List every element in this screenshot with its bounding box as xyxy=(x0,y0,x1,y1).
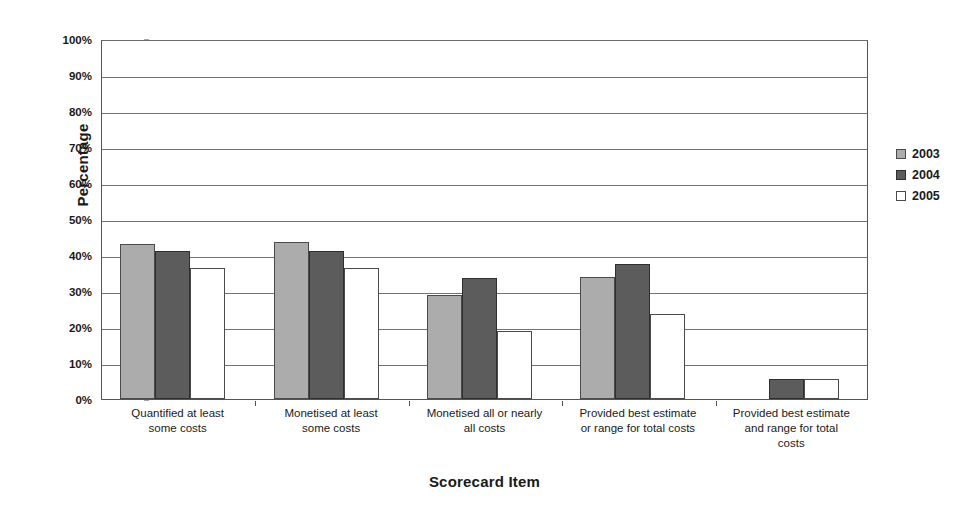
bar-2005-group-4 xyxy=(650,314,685,399)
x-axis-category-label-line: Provided best estimate xyxy=(554,406,721,421)
bar-2003-group-1 xyxy=(120,244,155,399)
y-axis-tick-label: 100% xyxy=(63,34,92,46)
bar-2003-group-3 xyxy=(427,295,462,399)
bars-layer xyxy=(102,41,867,399)
y-axis-tick-label: 60% xyxy=(69,178,92,190)
bar-chart: Percentage 100%90%80%70%60%50%40%30%20%1… xyxy=(0,0,980,511)
light-gray-swatch xyxy=(896,149,906,159)
y-axis-tick-labels: 100%90%80%70%60%50%40%30%20%10%0% xyxy=(48,40,96,400)
legend-item-2005[interactable]: 2005 xyxy=(896,185,974,206)
plot-area xyxy=(101,40,868,400)
y-axis-tick-label: 20% xyxy=(69,322,92,334)
y-axis-tick-label: 40% xyxy=(69,250,92,262)
bar-2004-group-4 xyxy=(615,264,650,399)
y-axis-tick-label: 0% xyxy=(75,394,92,406)
x-axis-category-label: Provided best estimateand range for tota… xyxy=(708,406,875,451)
bar-2005-group-3 xyxy=(497,331,532,399)
x-axis-category-labels: Quantified at leastsome costsMonetised a… xyxy=(101,406,868,466)
chart-legend: 200320042005 xyxy=(896,143,974,206)
bar-2004-group-3 xyxy=(462,278,497,399)
bar-2005-group-5 xyxy=(804,379,839,399)
x-axis-category-label: Provided best estimateor range for total… xyxy=(554,406,721,436)
x-axis-category-label: Quantified at leastsome costs xyxy=(94,406,261,436)
legend-item-label: 2004 xyxy=(912,168,940,182)
bar-2005-group-2 xyxy=(344,268,379,399)
bar-2005-group-1 xyxy=(190,268,225,399)
legend-item-label: 2005 xyxy=(912,189,940,203)
y-axis-tick-label: 10% xyxy=(69,358,92,370)
x-axis-category-label-line: some costs xyxy=(247,421,414,436)
x-axis-title: Scorecard Item xyxy=(101,473,868,490)
white-swatch xyxy=(896,191,906,201)
x-axis-category-label-line: and range for total xyxy=(708,421,875,436)
x-axis-category-label-line: some costs xyxy=(94,421,261,436)
x-axis-category-label-line: or range for total costs xyxy=(554,421,721,436)
bar-2004-group-2 xyxy=(309,251,344,399)
x-axis-category-label-line: all costs xyxy=(401,421,568,436)
legend-item-2003[interactable]: 2003 xyxy=(896,143,974,164)
x-axis-category-label-line: costs xyxy=(708,436,875,451)
bar-2003-group-4 xyxy=(580,277,615,399)
y-axis-tick-label: 50% xyxy=(69,214,92,226)
dark-gray-swatch xyxy=(896,170,906,180)
y-axis-tick-label: 30% xyxy=(69,286,92,298)
legend-item-label: 2003 xyxy=(912,147,940,161)
legend-item-2004[interactable]: 2004 xyxy=(896,164,974,185)
bar-2004-group-1 xyxy=(155,251,190,399)
y-axis-tick-label: 80% xyxy=(69,106,92,118)
x-axis-category-label: Monetised at leastsome costs xyxy=(247,406,414,436)
x-axis-category-label-line: Monetised all or nearly xyxy=(401,406,568,421)
bar-2004-group-5 xyxy=(769,379,804,399)
x-axis-category-label: Monetised all or nearlyall costs xyxy=(401,406,568,436)
y-axis-tick-label: 70% xyxy=(69,142,92,154)
y-axis-tick-label: 90% xyxy=(69,70,92,82)
bar-2003-group-2 xyxy=(274,242,309,399)
x-axis-category-label-line: Quantified at least xyxy=(94,406,261,421)
x-axis-category-label-line: Monetised at least xyxy=(247,406,414,421)
x-axis-category-label-line: Provided best estimate xyxy=(708,406,875,421)
